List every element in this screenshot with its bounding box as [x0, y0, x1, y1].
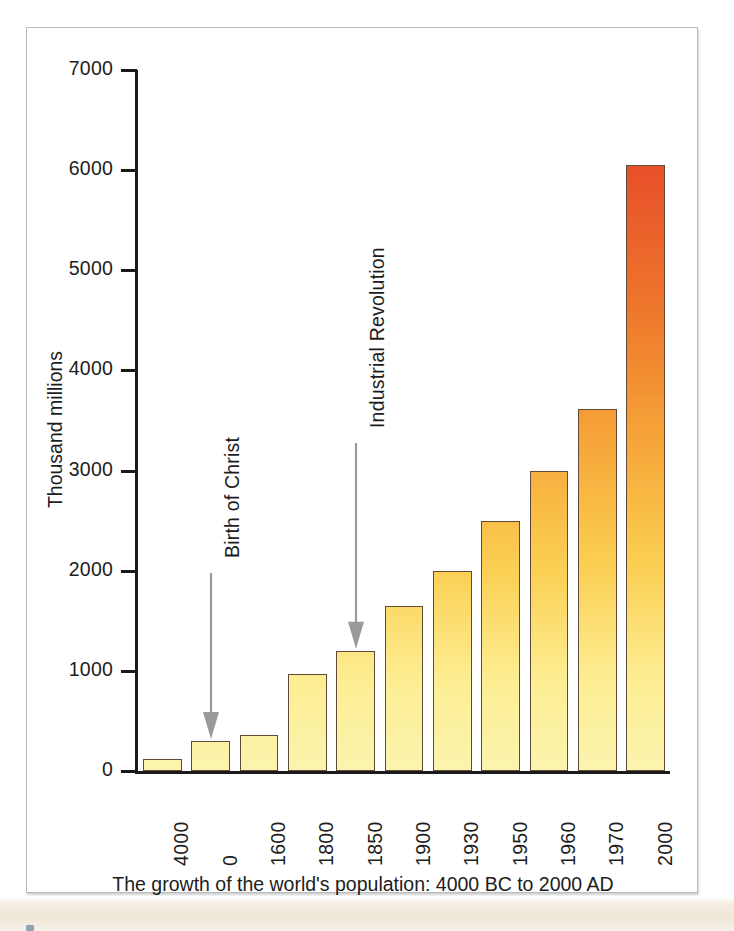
y-axis-tick-label: 7000: [37, 57, 113, 80]
x-axis-tick-label: 4000: [170, 821, 193, 866]
y-axis-tick: [121, 269, 137, 272]
figure-frame: 01000200030004000500060007000 Thousand m…: [26, 27, 698, 893]
bar: [626, 165, 665, 771]
annotation-label: Birth of Christ: [221, 437, 244, 558]
y-axis-tick: [121, 770, 137, 773]
y-axis-tick-label: 6000: [37, 157, 113, 180]
y-axis-title: Thousand millions: [44, 330, 67, 530]
bar: [143, 759, 182, 771]
bar: [288, 674, 327, 771]
x-axis-tick-label: 1900: [412, 821, 435, 866]
x-axis-tick-label: 1600: [267, 821, 290, 866]
bar: [336, 651, 375, 771]
scanned-page-strip: [0, 897, 734, 931]
x-axis-tick-labels: 4000016001800185019001930195019601970200…: [138, 774, 670, 870]
bar: [578, 409, 617, 771]
y-axis-tick: [121, 169, 137, 172]
x-axis-tick-label: 1950: [509, 821, 532, 866]
y-axis-tick-label: 5000: [37, 257, 113, 280]
x-axis-tick-label: 1800: [315, 821, 338, 866]
bar: [433, 571, 472, 771]
bar: [530, 471, 569, 771]
y-axis-tick-labels: 01000200030004000500060007000: [27, 28, 113, 894]
y-axis-tick: [121, 69, 137, 72]
bar: [481, 521, 520, 771]
chart-plot-area: 01000200030004000500060007000 Thousand m…: [27, 28, 699, 894]
x-axis-tick-label: 1850: [364, 821, 387, 866]
y-axis-tick-label: 1000: [37, 658, 113, 681]
bar: [385, 606, 424, 771]
x-axis-tick-label: 1970: [605, 821, 628, 866]
y-axis-tick: [121, 670, 137, 673]
x-axis-tick-label: 1930: [460, 821, 483, 866]
y-axis-tick: [121, 369, 137, 372]
chart-caption: The growth of the world's population: 40…: [27, 873, 699, 896]
y-axis-tick-label: 0: [37, 758, 113, 781]
y-axis-tick-label: 2000: [37, 558, 113, 581]
annotation-arrow-icon: [345, 443, 367, 649]
y-axis-tick: [121, 470, 137, 473]
annotation-arrow-icon: [200, 573, 222, 739]
x-axis-tick-label: 0: [219, 855, 242, 866]
x-axis-tick-label: 2000: [654, 821, 677, 866]
bar: [191, 741, 230, 771]
page-edge-mark: [26, 925, 34, 931]
x-axis-tick-label: 1960: [557, 821, 580, 866]
bar: [240, 735, 279, 771]
annotation-label: Industrial Revolution: [366, 247, 389, 428]
y-axis-tick: [121, 570, 137, 573]
